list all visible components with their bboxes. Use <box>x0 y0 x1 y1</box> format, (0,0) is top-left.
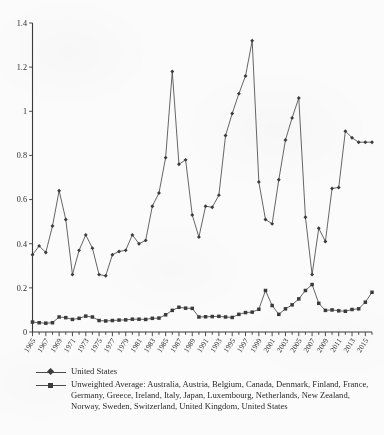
x-tick-label: 2013 <box>341 336 357 354</box>
data-point-marker <box>70 273 74 277</box>
data-point-marker <box>257 308 261 312</box>
data-point-marker <box>131 317 135 321</box>
x-tick-label: 1993 <box>208 336 224 354</box>
data-point-marker <box>364 300 368 304</box>
data-point-marker <box>197 315 201 319</box>
data-point-marker <box>217 315 221 319</box>
data-point-marker <box>317 226 321 230</box>
data-point-marker <box>97 273 101 277</box>
data-point-marker <box>250 39 254 43</box>
data-point-marker <box>71 318 75 322</box>
data-point-marker <box>323 240 327 244</box>
data-point-marker <box>137 317 141 321</box>
x-tick-label: 1973 <box>75 336 91 354</box>
data-point-marker <box>164 156 168 160</box>
data-point-marker <box>77 248 81 252</box>
y-tick-label: 1.4 <box>17 19 27 28</box>
y-tick-label: 1.2 <box>17 63 27 72</box>
data-point-marker <box>84 233 88 237</box>
data-point-marker <box>184 306 188 310</box>
series-unweighted-average <box>31 283 374 325</box>
data-point-marker <box>250 310 254 314</box>
data-point-marker <box>277 178 281 182</box>
x-tick-label: 1979 <box>115 336 131 354</box>
x-tick-label: 1987 <box>168 336 184 354</box>
data-point-marker <box>350 308 354 312</box>
data-point-marker <box>51 224 55 228</box>
series-path <box>33 285 373 324</box>
data-point-marker <box>277 313 281 317</box>
x-tick-label: 1975 <box>88 336 104 354</box>
data-point-marker <box>157 316 161 320</box>
data-point-marker <box>117 249 121 253</box>
data-point-marker <box>370 291 374 295</box>
data-series-group <box>31 39 374 325</box>
data-point-marker <box>31 320 35 324</box>
data-point-marker <box>257 180 261 184</box>
data-point-marker <box>210 315 214 319</box>
y-tick-label: 0.8 <box>17 151 27 160</box>
data-point-marker <box>191 307 195 311</box>
x-axis-labels: 1965196719691971197319751977197919811983… <box>22 336 371 354</box>
x-tick-label: 2003 <box>275 336 291 354</box>
data-point-marker <box>290 116 294 120</box>
data-point-marker <box>144 318 148 322</box>
data-point-marker <box>57 189 61 193</box>
y-tick-label: 1 <box>23 107 27 116</box>
data-point-marker <box>91 315 95 319</box>
x-tick-label: 1971 <box>62 336 78 354</box>
data-point-marker <box>310 273 314 277</box>
data-point-marker <box>237 92 241 96</box>
data-point-marker <box>230 316 234 320</box>
data-point-marker <box>77 317 81 321</box>
x-tick-label: 1967 <box>35 336 51 354</box>
data-point-marker <box>204 204 208 208</box>
data-point-marker <box>177 306 181 310</box>
data-point-marker <box>44 321 48 325</box>
data-point-marker <box>51 321 55 325</box>
data-point-marker <box>57 315 61 319</box>
x-tick-label: 2009 <box>315 336 331 354</box>
data-point-marker <box>64 217 68 221</box>
data-point-marker <box>264 289 268 293</box>
x-tick-label: 1985 <box>155 336 171 354</box>
x-tick-label: 1999 <box>248 336 264 354</box>
data-point-marker <box>97 319 101 323</box>
x-tick-label: 1977 <box>102 336 118 354</box>
y-tick-label: 0 <box>23 328 27 337</box>
data-point-marker <box>204 315 208 319</box>
data-point-marker <box>84 314 88 318</box>
data-point-marker <box>197 235 201 239</box>
data-point-marker <box>310 283 314 287</box>
y-tick-label: 0.2 <box>17 284 27 293</box>
data-point-marker <box>363 140 367 144</box>
x-tick-label: 1989 <box>182 336 198 354</box>
x-tick-label: 2005 <box>288 336 304 354</box>
data-point-marker <box>337 309 341 313</box>
data-point-marker <box>297 96 301 100</box>
x-tick-label: 1997 <box>235 336 251 354</box>
data-point-marker <box>110 253 114 257</box>
data-point-marker <box>297 297 301 301</box>
data-point-marker <box>244 74 248 78</box>
data-point-marker <box>210 205 214 209</box>
data-point-marker <box>303 215 307 219</box>
series-united-states <box>31 39 374 278</box>
data-point-marker <box>117 318 121 322</box>
data-point-marker <box>344 310 348 314</box>
x-tick-label: 2015 <box>355 336 371 354</box>
data-point-marker <box>224 134 228 138</box>
x-tick-label: 2001 <box>261 336 277 354</box>
data-point-marker <box>90 246 94 250</box>
data-point-marker <box>64 316 68 320</box>
chart-legend: United States Unweighted Average: Austra… <box>36 366 376 414</box>
data-point-marker <box>357 307 361 311</box>
data-point-marker <box>37 321 41 325</box>
data-point-marker <box>104 274 108 278</box>
data-point-marker <box>170 70 174 74</box>
legend-item-united-states: United States <box>36 366 376 378</box>
data-point-marker <box>304 289 308 293</box>
data-point-marker <box>190 213 194 217</box>
data-point-marker <box>157 191 161 195</box>
data-point-marker <box>124 248 128 252</box>
